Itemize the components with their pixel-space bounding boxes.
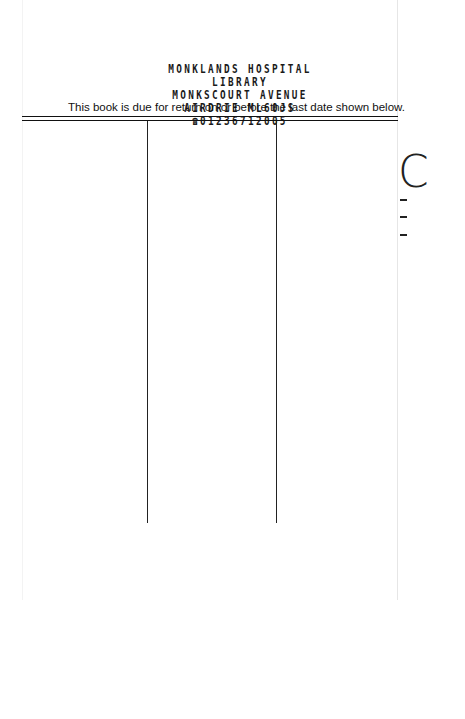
page-edge-right — [397, 0, 398, 600]
page-edge-left — [22, 0, 23, 600]
edge-dash-mark — [400, 216, 407, 218]
library-stamp: MONKLANDS HOSPITAL LIBRARY MONKSCOURT AV… — [146, 63, 333, 128]
due-date-slip: MONKLANDS HOSPITAL LIBRARY MONKSCOURT AV… — [0, 0, 465, 719]
header-rule-top — [22, 116, 398, 117]
column-divider-left — [147, 121, 148, 523]
column-divider-right — [276, 121, 277, 523]
header-rule-bottom — [22, 120, 398, 121]
edge-dash-mark — [400, 199, 407, 201]
due-notice: This book is due for return on or before… — [68, 101, 405, 113]
edge-c-mark: C — [398, 150, 429, 194]
edge-dash-mark — [400, 234, 407, 236]
